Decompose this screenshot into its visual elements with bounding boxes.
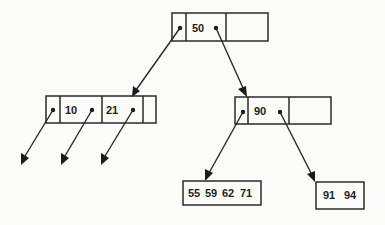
arrowhead-icon xyxy=(307,171,315,182)
arrowhead-icon xyxy=(238,86,247,97)
b-tree-diagram: 50 10 21 90 55 59 62 71 91 94 xyxy=(0,0,385,225)
edge-left-subtree-2 xyxy=(105,110,133,156)
left-node: 10 21 xyxy=(46,96,156,123)
leaf-left-key-2: 62 xyxy=(222,187,234,199)
right-key-0: 90 xyxy=(254,105,266,117)
right-node-box xyxy=(235,97,331,124)
leaf-left-key-3: 71 xyxy=(240,187,252,199)
left-key-0: 10 xyxy=(65,104,77,116)
edge-root-right xyxy=(216,28,243,88)
leaf-left-node: 55 59 62 71 xyxy=(183,181,261,205)
edge-left-subtree-0 xyxy=(25,110,53,156)
edge-right-leaf-right xyxy=(280,112,311,173)
edge-left-subtree-1 xyxy=(65,110,92,156)
leaf-left-key-0: 55 xyxy=(188,187,200,199)
left-key-1: 21 xyxy=(106,104,118,116)
arrowhead-icon xyxy=(205,169,213,181)
left-node-box xyxy=(46,96,156,123)
leaf-right-node: 91 94 xyxy=(316,182,364,209)
leaf-right-key-1: 94 xyxy=(344,189,357,201)
leaf-right-key-0: 91 xyxy=(323,189,335,201)
root-key-0: 50 xyxy=(192,22,204,34)
edge-root-left xyxy=(136,28,180,90)
leaf-left-key-1: 59 xyxy=(205,187,217,199)
edge-right-leaf-left xyxy=(209,112,243,173)
right-node: 90 xyxy=(235,97,331,124)
